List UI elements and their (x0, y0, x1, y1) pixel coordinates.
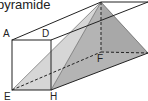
vertex-label-d: D (42, 29, 49, 39)
vertex-label-e: E (4, 92, 11, 101)
cuboid-pyramid-diagram (0, 0, 148, 101)
vertex-label-a: A (3, 29, 10, 39)
vertex-label-h: H (50, 92, 57, 101)
vertex-label-f: F (97, 54, 103, 64)
